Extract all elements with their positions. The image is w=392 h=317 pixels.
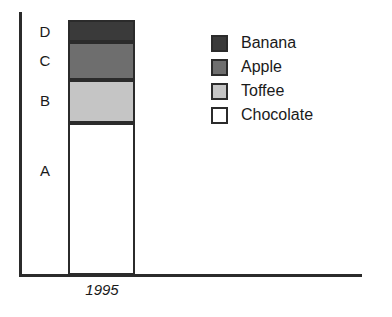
legend-label-apple: Apple: [241, 59, 282, 75]
legend: Banana Apple Toffee Chocolate: [211, 31, 313, 127]
bar-segment-apple[interactable]: [68, 42, 135, 80]
legend-swatch-apple: [211, 59, 228, 76]
segment-label-d: D: [32, 24, 58, 39]
legend-label-banana: Banana: [241, 35, 296, 51]
legend-item-banana[interactable]: Banana: [211, 31, 313, 55]
legend-label-toffee: Toffee: [241, 83, 284, 99]
y-axis-line: [19, 12, 22, 276]
legend-item-toffee[interactable]: Toffee: [211, 79, 313, 103]
bar-segment-banana[interactable]: [68, 20, 135, 42]
legend-swatch-toffee: [211, 83, 228, 100]
bar-segment-toffee[interactable]: [68, 80, 135, 123]
legend-swatch-banana: [211, 35, 228, 52]
segment-label-c: C: [32, 53, 58, 68]
stacked-bar-chart: D C B A 1995 Banana Apple Toffee Chocola…: [0, 0, 392, 317]
legend-item-apple[interactable]: Apple: [211, 55, 313, 79]
bar-stack-1995: [68, 20, 135, 275]
x-axis-tick-label-1995: 1995: [60, 281, 144, 298]
segment-label-a: A: [32, 163, 58, 178]
legend-item-chocolate[interactable]: Chocolate: [211, 103, 313, 127]
legend-label-chocolate: Chocolate: [241, 107, 313, 123]
legend-swatch-chocolate: [211, 107, 228, 124]
bar-segment-chocolate[interactable]: [68, 123, 135, 275]
segment-label-b: B: [32, 93, 58, 108]
